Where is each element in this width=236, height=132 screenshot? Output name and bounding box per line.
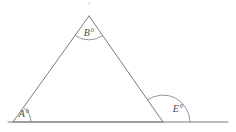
- triangle-diagram-svg: A° B° E°: [0, 0, 236, 132]
- angle-label-a: A°: [18, 108, 30, 119]
- angle-label-e: E°: [172, 103, 184, 114]
- angle-label-b: B°: [84, 27, 95, 38]
- triangle-side-right: [89, 16, 163, 122]
- geometry-figure: A° B° E°: [0, 0, 236, 132]
- triangle-side-left: [13, 16, 89, 122]
